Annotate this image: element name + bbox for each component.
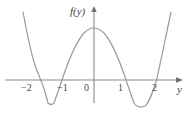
function-curve <box>23 12 171 107</box>
x-axis-title: y <box>177 84 182 95</box>
x-tick-label-zero: 0 <box>84 83 89 93</box>
x-axis-arrowhead <box>176 77 183 83</box>
x-tick-label-two: 2 <box>152 83 157 93</box>
plot-canvas <box>0 0 188 118</box>
x-tick-label-minus-2: −2 <box>21 83 32 93</box>
y-axis-arrowhead <box>91 6 96 12</box>
x-tick-label-one: 1 <box>118 83 123 93</box>
x-tick-label-minus-1: −1 <box>57 83 68 93</box>
y-axis-title: f(y) <box>70 6 85 17</box>
function-graph-figure: f(y) y −2 −1 0 1 2 <box>0 0 188 118</box>
